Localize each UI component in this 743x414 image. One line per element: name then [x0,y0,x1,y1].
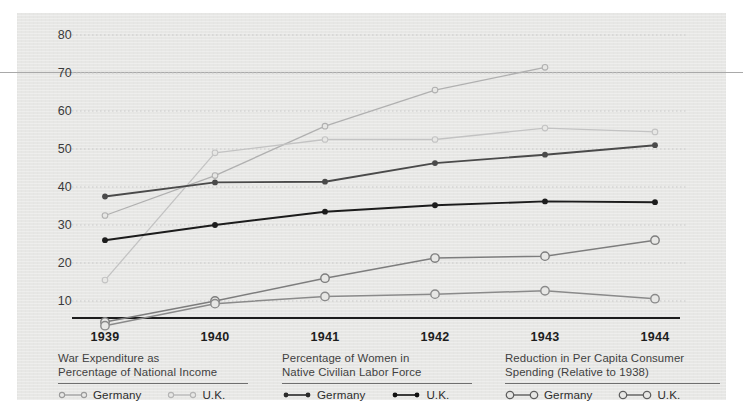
y-tick-label: 50 [42,142,72,156]
open-small-marker-line-icon [167,390,197,400]
legend-caption-line2: Percentage of National Income [58,365,248,379]
legend-key-label: U.K. [657,388,680,402]
legend-divider [505,383,720,384]
data-point [321,274,329,282]
data-point [211,299,219,307]
legend-key-germany[interactable]: Germany [282,388,365,402]
legend-key-label: U.K. [426,388,449,402]
data-point [212,222,218,228]
legend-war-expenditure: War Expenditure as Percentage of Nationa… [58,351,248,402]
data-point [322,179,328,185]
series-line [105,145,655,196]
data-point [651,236,659,244]
data-point [212,150,218,156]
data-point [541,287,549,295]
data-point [212,180,218,186]
legend-key-uk[interactable]: U.K. [167,388,225,402]
legend-caption-line2: Native Civilian Labor Force [282,365,472,379]
series-3 [102,199,658,244]
legend-divider [58,383,248,384]
filled-small-marker-line-icon [282,390,312,400]
y-tick-label: 40 [42,180,72,194]
legend-key-uk[interactable]: U.K. [391,388,449,402]
data-point [542,125,548,131]
legend-caption-line1: Reduction in Per Capita Consumer [505,351,720,365]
data-point [652,199,658,205]
legend-divider [282,383,472,384]
legend-key-label: Germany [544,388,592,402]
data-point [431,290,439,298]
data-point [432,87,438,93]
series-line [105,291,655,326]
y-tick-label: 70 [42,66,72,80]
data-point [542,199,548,205]
legend-caption-line1: War Expenditure as [58,351,248,365]
chart-figure: 80 70 60 50 40 30 20 10 1939 1940 1941 1… [0,0,743,414]
series-2 [102,142,658,199]
data-point [322,137,328,143]
data-point [432,202,438,208]
y-tick-label: 20 [42,256,72,270]
data-point [212,173,218,179]
series-line [105,201,655,240]
filled-small-marker-line-icon [391,390,421,400]
data-point [322,123,328,129]
legend-women-labor-force: Percentage of Women in Native Civilian L… [282,351,472,402]
x-tick-label-1943: 1943 [515,330,575,344]
x-tick-label-1940: 1940 [185,330,245,344]
data-point [321,292,329,300]
legend-caption-line1: Percentage of Women in [282,351,472,365]
data-point [541,252,549,260]
legend-key-uk[interactable]: U.K. [618,388,680,402]
series-line [105,128,655,280]
data-point [102,213,108,219]
x-tick-label-1941: 1941 [295,330,355,344]
data-point [431,254,439,262]
series-4 [101,236,659,326]
data-point [102,194,108,200]
legend-key-germany[interactable]: Germany [505,388,592,402]
legend-key-label: Germany [317,388,365,402]
open-large-marker-line-icon [618,389,652,401]
y-tick-label: 60 [42,104,72,118]
open-large-marker-line-icon [505,389,539,401]
legend-consumer-spending: Reduction in Per Capita Consumer Spendin… [505,351,720,402]
x-tick-label-1942: 1942 [405,330,465,344]
legend-key-germany[interactable]: Germany [58,388,141,402]
x-tick-label-1944: 1944 [625,330,685,344]
legend-key-label: U.K. [202,388,225,402]
open-small-marker-line-icon [58,390,88,400]
series-5 [101,287,659,330]
data-point [542,65,548,71]
data-point [102,277,108,283]
y-tick-label: 10 [42,294,72,308]
data-point [651,295,659,303]
legend-key-label: Germany [93,388,141,402]
y-tick-label: 30 [42,218,72,232]
data-point [432,137,438,143]
data-point [652,129,658,135]
data-point [432,160,438,166]
x-tick-label-1939: 1939 [75,330,135,344]
legend-caption-line2: Spending (Relative to 1938) [505,365,720,379]
data-point [322,209,328,215]
data-point [102,237,108,243]
data-point [652,142,658,148]
y-tick-label: 80 [42,28,72,42]
data-point [542,152,548,158]
data-point [101,322,109,330]
